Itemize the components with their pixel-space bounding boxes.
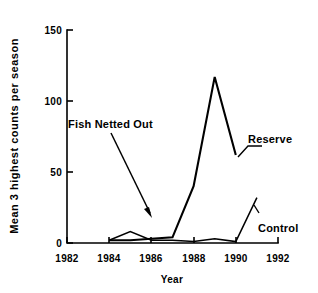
x-tick-label-1992: 1992 xyxy=(266,253,290,264)
series-line-control xyxy=(109,198,257,242)
x-tick-label-1988: 1988 xyxy=(182,253,206,264)
x-tick-label-1986: 1986 xyxy=(139,253,163,264)
x-axis-title: Year xyxy=(161,274,184,285)
reserve-leader-line xyxy=(238,146,262,157)
axis-lines xyxy=(67,30,278,243)
annotation-arrow-line xyxy=(111,133,150,213)
line-chart: 150 100 50 0 1982 1984 1986 1988 1990 19… xyxy=(0,0,318,293)
y-tick-label-100: 100 xyxy=(44,96,62,107)
y-tick-label-0: 0 xyxy=(56,238,62,249)
y-axis-title: Mean 3 highest counts per season xyxy=(8,38,20,234)
annotation-label-fish-netted-out: Fish Netted Out xyxy=(68,118,153,130)
series-line-reserve xyxy=(109,77,236,240)
chart-figure: 150 100 50 0 1982 1984 1986 1988 1990 19… xyxy=(0,0,318,293)
series-label-reserve: Reserve xyxy=(248,133,292,145)
series-label-control: Control xyxy=(258,222,299,234)
x-tick-label-1982: 1982 xyxy=(55,253,79,264)
x-tick-label-1984: 1984 xyxy=(97,253,121,264)
control-leader-line xyxy=(254,205,259,213)
annotation-arrow-head xyxy=(144,207,152,218)
y-tick-label-50: 50 xyxy=(50,167,62,178)
y-tick-label-150: 150 xyxy=(44,25,62,36)
x-tick-label-1990: 1990 xyxy=(224,253,248,264)
